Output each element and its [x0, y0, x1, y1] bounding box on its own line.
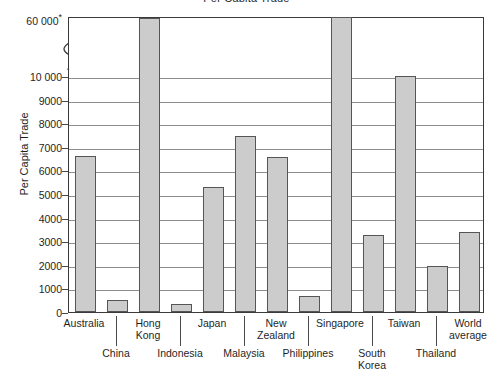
y-tick-mark: [62, 313, 68, 314]
per-capita-trade-bar-chart: Per Capita Trade 60 000*10 0009000800070…: [0, 0, 493, 392]
bar: [299, 296, 320, 312]
bar: [139, 18, 160, 312]
y-tick-label: 60 000*: [0, 12, 62, 26]
bar: [331, 17, 352, 312]
bar: [459, 232, 480, 312]
bar: [203, 187, 224, 312]
gridline: [69, 102, 483, 103]
y-axis-title: Per Capita Trade: [18, 84, 30, 224]
plot-area: [68, 17, 484, 313]
bar: [395, 76, 416, 312]
y-tick-label: 7000: [0, 143, 62, 153]
x-axis-label-singapore: Singapore: [304, 318, 376, 330]
x-axis-label-south_korea: South Korea: [336, 348, 408, 371]
y-tick-label: 10 000: [0, 72, 62, 82]
x-axis-label-china: China: [80, 348, 152, 360]
x-axis-label-world_average: World average: [432, 318, 493, 341]
bar: [171, 304, 192, 312]
x-axis-label-indonesia: Indonesia: [144, 348, 216, 360]
y-tick-label: 6000: [0, 166, 62, 176]
footnote-marker: *: [58, 12, 62, 22]
y-tick-label: 2000: [0, 261, 62, 271]
y-tick-label: 3000: [0, 237, 62, 247]
x-axis-label-philippines: Philippines: [272, 348, 344, 360]
chart-title: Per Capita Trade: [0, 0, 493, 2]
x-axis-label-australia: Australia: [48, 318, 120, 330]
bar: [75, 156, 96, 312]
bar: [235, 136, 256, 312]
x-axis-label-hong_kong: Hong Kong: [112, 318, 184, 341]
y-tick-label: 0: [0, 308, 62, 318]
bar: [427, 266, 448, 312]
y-tick-label: 9000: [0, 96, 62, 106]
bar: [363, 235, 384, 312]
x-axis-label-japan: Japan: [176, 318, 248, 330]
y-tick-label: 1000: [0, 284, 62, 294]
bar: [107, 300, 128, 312]
y-tick-label: 5000: [0, 190, 62, 200]
gridline: [69, 149, 483, 150]
x-axis-label-taiwan: Taiwan: [368, 318, 440, 330]
x-axis-label-new_zealand: New Zealand: [240, 318, 312, 341]
gridline: [69, 125, 483, 126]
x-axis-label-thailand: Thailand: [400, 348, 472, 360]
bar: [267, 157, 288, 312]
gridline: [69, 78, 483, 79]
y-tick-label: 4000: [0, 214, 62, 224]
x-axis-label-malaysia: Malaysia: [208, 348, 280, 360]
y-tick-label: 8000: [0, 119, 62, 129]
